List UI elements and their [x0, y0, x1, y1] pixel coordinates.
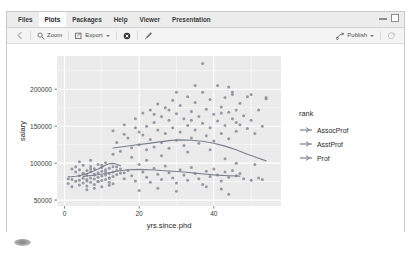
data-point [168, 147, 171, 150]
zoom-label: Zoom [47, 28, 62, 43]
data-point [227, 86, 230, 89]
data-point [93, 187, 96, 190]
data-point [97, 176, 100, 179]
data-point [231, 169, 234, 172]
minimize-icon[interactable] [379, 14, 388, 22]
ggplot-scatter-plot: 5000010000015000020000002040yrs.since.ph… [7, 44, 404, 233]
legend-label-assocprof[interactable]: AssocProf [317, 127, 348, 134]
data-point [130, 174, 133, 177]
data-point [220, 105, 223, 108]
y-tick-label: 200000 [30, 86, 52, 93]
chevron-down-icon[interactable] [106, 35, 110, 37]
data-point [149, 108, 152, 111]
zoom-button[interactable]: Zoom [35, 28, 64, 43]
data-point [242, 177, 245, 180]
data-point [235, 130, 238, 133]
data-point [108, 184, 111, 187]
y-tick-label: 50000 [34, 197, 53, 204]
plot-canvas-container: 5000010000015000020000002040yrs.since.ph… [7, 44, 404, 233]
data-point [67, 177, 70, 180]
tab-help[interactable]: Help [108, 12, 134, 27]
data-point [93, 183, 96, 186]
data-point [149, 138, 152, 141]
pane-tabs: FilesPlotsPackagesHelpViewerPresentation [12, 12, 217, 27]
data-point [160, 178, 163, 181]
data-point [220, 179, 223, 182]
data-point [190, 119, 193, 122]
y-tick-label: 150000 [30, 123, 52, 130]
data-point [70, 185, 73, 188]
data-point [123, 133, 126, 136]
legend-label-asstprof[interactable]: AsstProf [317, 141, 343, 148]
data-point [134, 126, 137, 129]
maximize-icon[interactable] [391, 14, 400, 22]
data-point [89, 159, 92, 162]
data-point [171, 99, 174, 102]
data-point [156, 187, 159, 190]
tab-viewer[interactable]: Viewer [134, 12, 167, 27]
data-point [97, 171, 100, 174]
data-point [212, 168, 215, 171]
data-point [97, 180, 100, 183]
data-point [175, 182, 178, 185]
legend-label-prof[interactable]: Prof [317, 155, 330, 162]
data-point [89, 168, 92, 171]
data-point [108, 181, 111, 184]
data-point [82, 182, 85, 185]
data-point [108, 167, 111, 170]
data-point [104, 178, 107, 181]
back-arrow-icon[interactable] [13, 31, 26, 40]
tab-packages[interactable]: Packages [66, 12, 108, 27]
x-tick-label: 0 [63, 210, 67, 217]
data-point [205, 170, 208, 173]
data-point [175, 112, 178, 115]
data-point [175, 190, 178, 193]
data-point [209, 126, 212, 129]
data-point [231, 91, 234, 94]
export-button[interactable]: Export [73, 28, 111, 43]
tab-presentation[interactable]: Presentation [166, 12, 217, 27]
data-point [216, 120, 219, 123]
data-point [246, 95, 249, 98]
mouse-cursor [14, 239, 31, 246]
data-point [242, 114, 245, 117]
data-point [265, 96, 268, 99]
tab-files[interactable]: Files [12, 12, 39, 27]
remove-plot-button[interactable] [121, 32, 133, 40]
window-controls [379, 14, 400, 22]
chevron-down-icon[interactable] [370, 35, 374, 37]
data-point [235, 121, 238, 124]
data-point [138, 189, 141, 192]
data-point [112, 129, 115, 132]
data-point [212, 139, 215, 142]
refresh-button[interactable] [385, 31, 398, 40]
toolbar-separator [137, 31, 138, 40]
data-point [141, 134, 144, 137]
data-point [153, 145, 156, 148]
data-point [93, 178, 96, 181]
data-point [78, 168, 81, 171]
clear-all-plots-button[interactable] [142, 31, 155, 40]
data-point [74, 165, 77, 168]
data-point [74, 171, 77, 174]
data-point [182, 117, 185, 120]
data-point [112, 165, 115, 168]
data-point [100, 185, 103, 188]
data-point [153, 167, 156, 170]
data-point [224, 171, 227, 174]
data-point [141, 171, 144, 174]
data-point [85, 178, 88, 181]
data-point [194, 128, 197, 131]
data-point [119, 150, 122, 153]
publish-button[interactable]: Publish [334, 28, 376, 43]
data-point [164, 106, 167, 109]
data-point [175, 91, 178, 94]
data-point [201, 122, 204, 125]
data-point [253, 163, 256, 166]
data-point [153, 113, 156, 116]
x-axis-label: yrs.since.phd [147, 221, 192, 230]
data-point [224, 157, 227, 160]
tab-plots[interactable]: Plots [39, 12, 67, 27]
data-point [115, 173, 118, 176]
data-point [194, 84, 197, 87]
